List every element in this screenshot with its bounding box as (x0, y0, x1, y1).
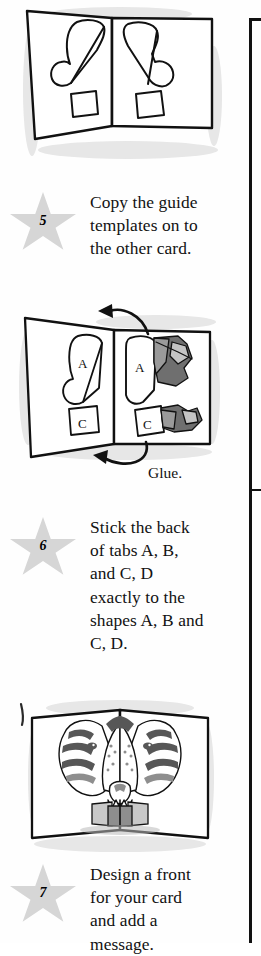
label-tab-C-left: C (78, 416, 87, 431)
illustration-open-card-with-guide-templates (8, 0, 233, 180)
stray-pen-mark (21, 704, 23, 725)
arrow-head-top (98, 304, 113, 318)
page-rule-top-cap (249, 18, 261, 21)
label-shape-A-right: A (135, 360, 145, 375)
illustration-finished-popup-tiger-card (8, 694, 234, 854)
label-tab-C-right: C (143, 417, 152, 432)
step-7-number: 7 (40, 885, 47, 901)
step-5-star-badge: 5 (10, 192, 76, 254)
step-5-text: Copy the guide templates on to the other… (90, 191, 208, 261)
page-vertical-rule (249, 18, 252, 943)
step-6-text: Stick the back of tabs A, B, and C, D ex… (90, 516, 208, 655)
illustration-gluing-tabs-to-shapes: A C A C (6, 292, 238, 467)
step-7-star-badge: 7 (10, 864, 76, 926)
step-5-number: 5 (40, 213, 47, 229)
step-6-number: 6 (40, 538, 47, 554)
step-6-star-badge: 6 (10, 517, 76, 579)
step-7-text: Design a front for your card and add a m… (90, 863, 208, 956)
label-shape-A-left: A (78, 356, 88, 371)
glue-caption: Glue. (148, 464, 182, 482)
page-rule-middle-tick (249, 489, 261, 491)
